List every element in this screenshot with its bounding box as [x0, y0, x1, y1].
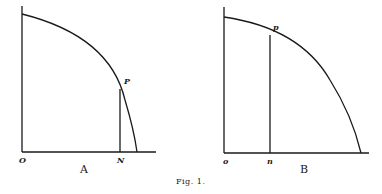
panel-b-foot-label: n: [267, 156, 273, 166]
figure-caption: Fig. 1.: [176, 177, 205, 186]
panel-b-label: B: [300, 163, 308, 176]
panel-b-curve: [224, 17, 361, 153]
panel-a-label: A: [79, 163, 89, 176]
panel-a: [22, 6, 156, 152]
panel-b: [224, 7, 369, 153]
panel-a-foot-label: N: [116, 155, 125, 165]
figure-1: P O N A p o n B Fig. 1.: [0, 0, 382, 194]
panel-a-origin-label: O: [19, 155, 26, 165]
panel-b-origin-label: o: [223, 156, 229, 166]
panel-b-point-label: p: [273, 22, 279, 32]
panel-a-point-label: P: [123, 76, 131, 86]
